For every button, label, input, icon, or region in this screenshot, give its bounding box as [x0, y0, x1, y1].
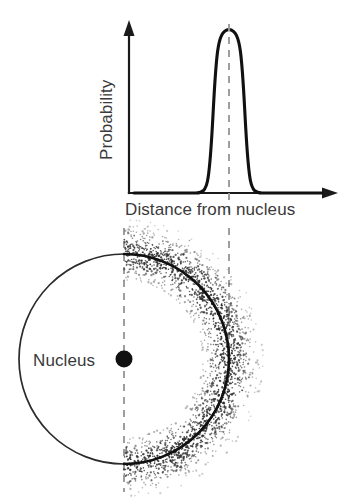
cloud-dot — [160, 477, 162, 479]
cloud-dot — [223, 411, 225, 413]
cloud-dot — [150, 442, 152, 444]
cloud-dot — [191, 430, 193, 432]
cloud-dot — [225, 282, 227, 284]
cloud-dot — [224, 361, 226, 363]
cloud-dot — [152, 285, 154, 287]
cloud-dot — [182, 453, 184, 455]
cloud-dot — [128, 442, 130, 444]
cloud-dot — [240, 381, 242, 383]
cloud-dot — [248, 376, 250, 378]
cloud-dot — [221, 286, 223, 288]
cloud-dot — [200, 440, 202, 442]
cloud-dot — [252, 328, 254, 330]
cloud-dot — [146, 458, 148, 460]
cloud-dot — [215, 322, 217, 324]
cloud-dot — [197, 255, 199, 257]
cloud-dot — [129, 454, 131, 456]
cloud-dot — [127, 279, 129, 281]
cloud-dot — [246, 315, 248, 317]
cloud-dot — [213, 444, 215, 446]
cloud-dot — [230, 283, 232, 285]
cloud-dot — [203, 383, 205, 385]
cloud-dot — [217, 427, 219, 429]
cloud-dot — [230, 422, 232, 424]
cloud-dot — [201, 387, 203, 389]
cloud-dot — [154, 279, 156, 281]
cloud-dot — [178, 277, 180, 279]
cloud-dot — [189, 418, 191, 420]
cloud-dot — [244, 366, 246, 368]
cloud-dot — [222, 360, 224, 362]
cloud-dot — [147, 281, 149, 283]
cloud-dot — [229, 321, 231, 323]
cloud-dot — [178, 298, 180, 300]
cloud-dot — [238, 354, 240, 356]
cloud-dot — [213, 404, 215, 406]
cloud-dot — [171, 261, 173, 263]
cloud-dot — [140, 234, 142, 236]
cloud-dot — [202, 319, 204, 321]
cloud-dot — [141, 479, 143, 481]
cloud-dot — [153, 254, 155, 256]
cloud-dot — [240, 355, 242, 357]
cloud-dot — [255, 323, 257, 325]
cloud-dot — [162, 471, 164, 473]
cloud-dot — [216, 295, 218, 297]
cloud-dot — [209, 394, 211, 396]
cloud-dot — [126, 261, 128, 263]
cloud-dot — [218, 297, 220, 299]
cloud-dot — [150, 248, 152, 250]
cloud-dot — [219, 431, 221, 433]
cloud-dot — [176, 245, 178, 247]
cloud-dot — [231, 336, 233, 338]
cloud-dot — [235, 314, 237, 316]
cloud-dot — [196, 422, 198, 424]
cloud-dot — [155, 255, 157, 257]
cloud-dot — [239, 376, 241, 378]
cloud-dot — [129, 226, 131, 228]
cloud-dot — [239, 296, 241, 298]
cloud-dot — [235, 411, 237, 413]
cloud-dot — [223, 348, 225, 350]
cloud-dot — [224, 302, 226, 304]
cloud-dot — [141, 451, 143, 453]
cloud-dot — [198, 405, 200, 407]
cloud-dot — [241, 367, 243, 369]
cloud-dot — [175, 435, 177, 437]
cloud-dot — [202, 363, 204, 365]
cloud-dot — [171, 428, 173, 430]
cloud-dot — [165, 440, 167, 442]
cloud-dot — [194, 430, 196, 432]
cloud-dot — [217, 337, 219, 339]
cloud-dot — [229, 400, 231, 402]
cloud-dot — [252, 369, 254, 371]
cloud-dot — [190, 266, 192, 268]
cloud-dot — [220, 359, 222, 361]
cloud-dot — [220, 406, 222, 408]
cloud-dot — [197, 407, 199, 409]
cloud-dot — [160, 264, 162, 266]
cloud-dot — [225, 422, 227, 424]
cloud-dot — [204, 317, 206, 319]
cloud-dot — [149, 236, 151, 238]
cloud-dot — [147, 472, 149, 474]
cloud-dot — [241, 342, 243, 344]
cloud-dot — [189, 423, 191, 425]
cloud-dot — [197, 262, 199, 264]
cloud-dot — [141, 236, 143, 238]
cloud-dot — [222, 350, 224, 352]
cloud-dot — [207, 284, 209, 286]
cloud-dot — [127, 474, 129, 476]
cloud-dot — [209, 307, 211, 309]
cloud-dot — [192, 268, 194, 270]
cloud-dot — [127, 458, 129, 460]
cloud-dot — [209, 269, 211, 271]
cloud-dot — [168, 293, 170, 295]
cloud-dot — [235, 394, 237, 396]
cloud-dot — [208, 333, 210, 335]
cloud-dot — [158, 255, 160, 257]
cloud-dot — [188, 430, 190, 432]
cloud-dot — [190, 262, 192, 264]
cloud-dot — [124, 456, 126, 458]
cloud-dot — [135, 270, 137, 272]
